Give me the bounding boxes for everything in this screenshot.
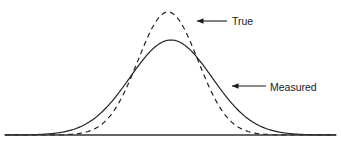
curve-true [5, 12, 336, 135]
measured-label: Measured [270, 81, 317, 93]
gaussian-comparison-figure: True Measured [0, 0, 341, 149]
true-label: True [232, 15, 253, 27]
figure-canvas: True Measured [0, 0, 341, 149]
